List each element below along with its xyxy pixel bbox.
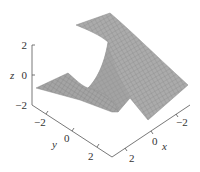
y-tick-neg2: −2 [34,116,46,128]
z-tick-neg2: −2 [15,99,27,111]
y-axis: −2 0 2 y [32,105,112,162]
z-axis-label: z [9,69,15,81]
z-tick-0: 0 [22,69,28,81]
x-tick-0: 0 [152,135,158,147]
y-axis-label: y [51,138,57,150]
x-tick-neg2: −2 [176,116,188,128]
y-tick-0: 0 [64,132,70,144]
surface-plot: 2 0 −2 z −2 0 2 y 2 0 −2 x [0,0,200,172]
y-tick-2: 2 [88,150,94,162]
z-axis: 2 0 −2 z [9,39,35,111]
x-axis-label: x [161,140,167,152]
x-tick-2: 2 [129,152,135,164]
z-tick-2: 2 [22,39,28,51]
